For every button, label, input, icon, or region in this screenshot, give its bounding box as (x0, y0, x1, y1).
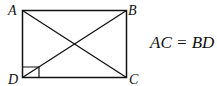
vertex-label-a: A (7, 3, 17, 18)
vertex-label-d: D (7, 72, 18, 86)
equation-text: AC = BD (150, 33, 214, 53)
vertex-label-c: C (129, 72, 139, 86)
vertex-label-b: B (128, 3, 137, 18)
